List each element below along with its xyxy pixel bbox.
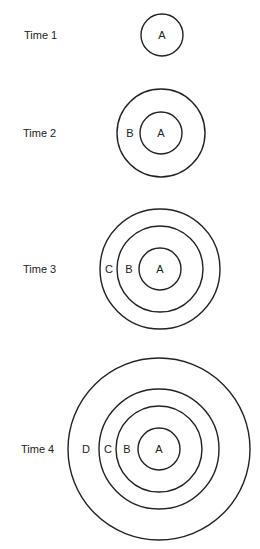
time-label: Time 2 (23, 127, 56, 139)
stage-time-2: Time 2AB (23, 89, 205, 177)
time-label: Time 4 (21, 443, 54, 455)
ring-label-a: A (156, 263, 164, 275)
ring-label-b: B (123, 443, 130, 455)
ring-label-c: C (104, 443, 112, 455)
time-label: Time 3 (23, 263, 56, 275)
ring-label-a: A (155, 443, 163, 455)
ring-label-a: A (158, 29, 166, 41)
ring-label-c: C (105, 263, 113, 275)
ring-label-b: B (126, 127, 133, 139)
ring-label-d: D (82, 443, 90, 455)
stage-time-3: Time 3ABC (23, 209, 220, 329)
concentric-growth-diagram: Time 1ATime 2ABTime 3ABCTime 4ABCD (0, 0, 260, 549)
time-label: Time 1 (24, 29, 57, 41)
ring-label-b: B (125, 263, 132, 275)
stage-time-1: Time 1A (24, 14, 183, 56)
stage-time-4: Time 4ABCD (21, 358, 250, 540)
ring-label-a: A (157, 127, 165, 139)
